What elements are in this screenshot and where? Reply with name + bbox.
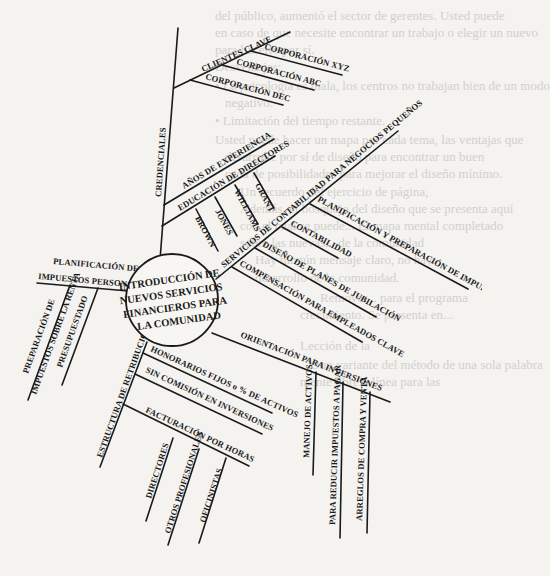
label-directores: DIRECTORES bbox=[143, 442, 170, 500]
label-contabilidad: CONTABILIDAD bbox=[289, 218, 354, 259]
label-brown: BROWN bbox=[193, 214, 218, 249]
branch-line-compensacion-empleados bbox=[232, 267, 362, 342]
branch-line-honorarios bbox=[143, 353, 272, 413]
label-impuestos-personales-1: PLANIFICACIÓN DE bbox=[53, 256, 140, 273]
label-arreglos-compra-venta: ARREGLOS DE COMPRA Y VENTA bbox=[354, 376, 369, 521]
label-jones: JONES bbox=[213, 207, 235, 237]
branch-line-anos-experiencia bbox=[164, 139, 274, 205]
label-grant: GRANT bbox=[253, 181, 277, 214]
label-manejo-activos: MANEJO DE ACTIVOS bbox=[301, 364, 314, 458]
branch-line-sin-comision bbox=[135, 374, 262, 434]
label-oficinistas: OFICINISTAS bbox=[197, 467, 224, 524]
